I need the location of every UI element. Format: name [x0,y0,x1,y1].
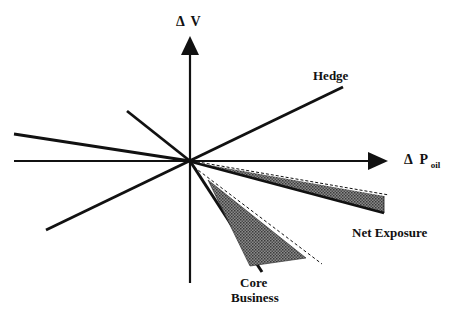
net-exposure-reflection-line [14,134,190,161]
net-exposure-dashed-line [192,161,389,195]
y-axis-label: Δ V [176,14,201,29]
core-business-label-line2: Business [231,290,279,305]
y-axis-arrow-icon [181,36,199,55]
core-business-label-line1: Core [240,275,267,290]
net-exposure-label: Net Exposure [352,225,427,240]
exposure-diagram: Δ V Δ P oil Hedge Net Exposure Core Busi… [0,0,452,310]
hedge-line [46,87,343,230]
x-axis-arrow-icon [368,152,388,170]
x-axis-label: Δ P oil [404,152,441,170]
hedge-label: Hedge [313,68,349,83]
